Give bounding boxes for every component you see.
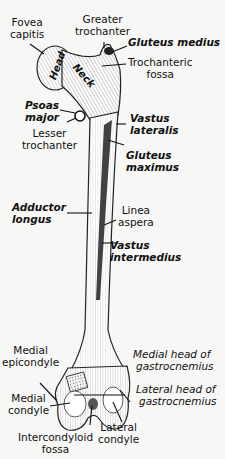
label-lesser-trochanter: Lessertrochanter [22, 128, 77, 151]
label-gluteus-maximus: Gluteusmaximus [126, 150, 179, 173]
label-vastus-intermedius: Vastusintermedius [110, 240, 181, 263]
gluteus-medius-insertion [104, 47, 114, 55]
label-vastus-lateralis: Vastuslateralis [130, 113, 179, 136]
lesser-trochanter-shape [75, 111, 85, 121]
label-fovea-capitis: Foveacapitis [10, 17, 44, 40]
label-adductor-longus: Adductorlongus [12, 202, 66, 225]
label-psoas-major: Psoasmajor [25, 100, 59, 123]
label-greater-trochanter: Greatertrochanter [75, 14, 130, 37]
label-gluteus-medius: Gluteus medius [128, 37, 220, 49]
label-intercondyloid-fossa: Intercondyloidfossa [18, 432, 93, 455]
label-lateral-head-gastrocnemius: Lateral head ofgastrocnemius [136, 384, 217, 407]
label-medial-epicondyle: Medialepicondyle [2, 345, 59, 368]
label-medial-condyle: Medialcondyle [8, 393, 49, 416]
label-medial-head-gastrocnemius: Medial head ofgastrocnemius [133, 349, 214, 372]
label-lateral-condyle: Lateralcondyle [98, 422, 139, 445]
label-trochanteric-fossa: Trochantericfossa [128, 57, 192, 80]
label-linea-aspera: Lineaaspera [118, 205, 154, 228]
